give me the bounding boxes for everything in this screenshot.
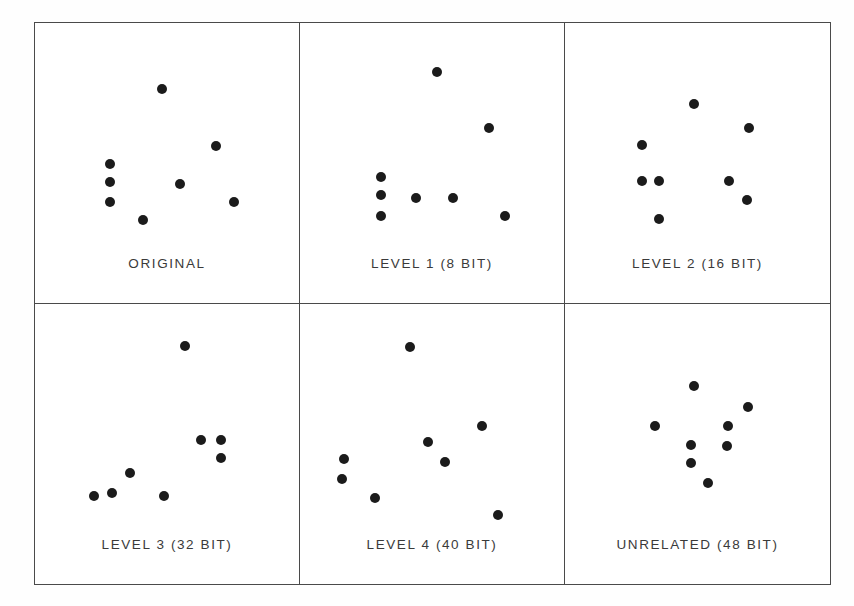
- data-point: [689, 99, 699, 109]
- panel-label-level-2: LEVEL 2 (16 BIT): [565, 256, 830, 271]
- data-point: [216, 453, 226, 463]
- data-point: [89, 491, 99, 501]
- data-point: [742, 195, 752, 205]
- data-point: [686, 440, 696, 450]
- data-point: [650, 421, 660, 431]
- data-point: [723, 421, 733, 431]
- scatter-panel-level-1: LEVEL 1 (8 BIT): [300, 23, 565, 304]
- data-point: [411, 193, 421, 203]
- data-point: [216, 435, 226, 445]
- data-point: [500, 211, 510, 221]
- data-point: [405, 342, 415, 352]
- scatter-panel-level-2: LEVEL 2 (16 BIT): [565, 23, 830, 304]
- data-point: [229, 197, 239, 207]
- data-point: [105, 159, 115, 169]
- data-point: [689, 381, 699, 391]
- scatter-panel-unrelated: UNRELATED (48 BIT): [565, 304, 830, 585]
- data-point: [376, 211, 386, 221]
- data-point: [339, 454, 349, 464]
- data-point: [105, 177, 115, 187]
- data-point: [493, 510, 503, 520]
- data-point: [484, 123, 494, 133]
- data-point: [722, 441, 732, 451]
- data-point: [654, 214, 664, 224]
- panel-label-level-1: LEVEL 1 (8 BIT): [300, 256, 564, 271]
- data-point: [654, 176, 664, 186]
- data-point: [107, 488, 117, 498]
- data-point: [159, 491, 169, 501]
- figure-container: ORIGINALLEVEL 1 (8 BIT)LEVEL 2 (16 BIT)L…: [0, 0, 854, 606]
- panel-label-unrelated: UNRELATED (48 BIT): [565, 537, 830, 552]
- data-point: [703, 478, 713, 488]
- scatter-panel-level-4: LEVEL 4 (40 BIT): [300, 304, 565, 585]
- data-point: [637, 140, 647, 150]
- data-point: [440, 457, 450, 467]
- data-point: [376, 172, 386, 182]
- data-point: [211, 141, 221, 151]
- data-point: [477, 421, 487, 431]
- panel-grid: ORIGINALLEVEL 1 (8 BIT)LEVEL 2 (16 BIT)L…: [34, 22, 831, 585]
- data-point: [138, 215, 148, 225]
- data-point: [105, 197, 115, 207]
- data-point: [125, 468, 135, 478]
- panel-label-level-4: LEVEL 4 (40 BIT): [300, 537, 564, 552]
- data-point: [175, 179, 185, 189]
- data-point: [196, 435, 206, 445]
- data-point: [744, 123, 754, 133]
- data-point: [448, 193, 458, 203]
- panel-label-original: ORIGINAL: [35, 256, 299, 271]
- data-point: [180, 341, 190, 351]
- panel-label-level-3: LEVEL 3 (32 BIT): [35, 537, 299, 552]
- data-point: [724, 176, 734, 186]
- scatter-panel-original: ORIGINAL: [35, 23, 300, 304]
- scatter-panel-level-3: LEVEL 3 (32 BIT): [35, 304, 300, 585]
- data-point: [423, 437, 433, 447]
- data-point: [376, 190, 386, 200]
- data-point: [686, 458, 696, 468]
- data-point: [157, 84, 167, 94]
- data-point: [637, 176, 647, 186]
- data-point: [337, 474, 347, 484]
- data-point: [432, 67, 442, 77]
- data-point: [743, 402, 753, 412]
- data-point: [370, 493, 380, 503]
